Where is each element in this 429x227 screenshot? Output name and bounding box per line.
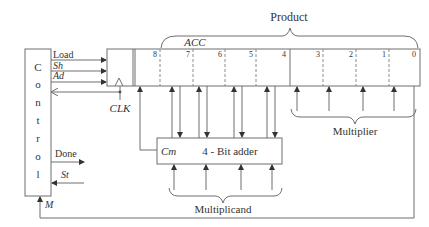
done-label: Done <box>55 148 77 159</box>
svg-text:6: 6 <box>218 50 222 59</box>
carry-to-bit8-line <box>140 87 157 150</box>
multiplier-label: Multiplier <box>333 125 378 137</box>
carry-label: Cm <box>161 145 176 157</box>
svg-text:o: o <box>35 150 41 162</box>
svg-text:l: l <box>36 168 39 180</box>
add-signal-label: Ad <box>52 70 65 81</box>
acc-adder-connections <box>172 86 275 138</box>
load-signal-label: Load <box>53 49 74 60</box>
svg-text:0: 0 <box>412 50 416 59</box>
svg-text:5: 5 <box>249 50 253 59</box>
svg-text:n: n <box>35 96 41 108</box>
svg-text:2: 2 <box>349 50 353 59</box>
m-label: M <box>44 199 54 210</box>
svg-text:4: 4 <box>282 50 286 59</box>
product-label: Product <box>270 10 308 24</box>
svg-text:o: o <box>35 78 41 90</box>
svg-text:r: r <box>36 132 40 144</box>
start-label: St <box>61 169 69 180</box>
multiplicand-label: Multiplicand <box>195 203 252 215</box>
svg-text:C: C <box>34 61 41 73</box>
multiplier-block-diagram: Product ACC C o n t r o l Load Sh Ad CLK… <box>0 0 429 227</box>
multiplier-brace <box>291 109 416 124</box>
clock-label: CLK <box>110 102 131 114</box>
multiplicand-brace <box>169 188 282 203</box>
multiplicand-inputs <box>174 165 272 190</box>
svg-text:8: 8 <box>153 50 157 59</box>
adder-label: 4 - Bit adder <box>202 145 258 157</box>
svg-text:t: t <box>36 114 39 126</box>
acc-label: ACC <box>183 36 206 48</box>
svg-text:1: 1 <box>382 50 386 59</box>
svg-text:7: 7 <box>186 50 190 59</box>
svg-text:3: 3 <box>316 50 320 59</box>
multiplier-inputs <box>297 87 394 111</box>
